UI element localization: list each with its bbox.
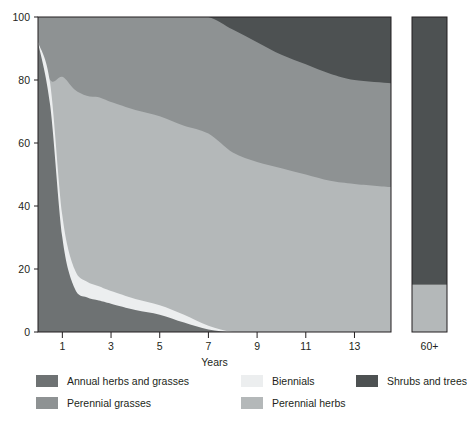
legend-swatch bbox=[36, 397, 58, 409]
legend-swatch bbox=[241, 375, 263, 387]
stacked-areas bbox=[38, 16, 391, 332]
legend-label: Perennial herbs bbox=[272, 397, 346, 409]
x-tick-label: 5 bbox=[157, 340, 163, 352]
legend-item: Perennial herbs bbox=[241, 392, 346, 414]
legend-label: Shrubs and trees bbox=[387, 375, 467, 387]
x-axis-title: Years bbox=[201, 356, 227, 368]
climax-column: 60+ bbox=[412, 17, 447, 352]
y-tick-label: 80 bbox=[18, 74, 30, 86]
legend-swatch bbox=[241, 397, 263, 409]
x-tick-label: 1 bbox=[59, 340, 65, 352]
x-tick-label: 3 bbox=[108, 340, 114, 352]
y-tick-label: 0 bbox=[24, 326, 30, 338]
legend-label: Perennial grasses bbox=[67, 397, 151, 409]
climax-segment-shrubs-and-trees bbox=[412, 17, 447, 285]
legend-item: Perennial grasses bbox=[36, 392, 189, 414]
y-axis: 020406080100 bbox=[12, 11, 38, 338]
legend-column: Shrubs and trees bbox=[356, 370, 467, 392]
x-tick-label: 13 bbox=[349, 340, 361, 352]
legend-item: Shrubs and trees bbox=[356, 370, 467, 392]
y-tick-label: 60 bbox=[18, 137, 30, 149]
x-tick-label: 9 bbox=[254, 340, 260, 352]
x-axis: 135791113 bbox=[59, 332, 360, 352]
y-tick-label: 40 bbox=[18, 200, 30, 212]
x-tick-label: 7 bbox=[205, 340, 211, 352]
legend-swatch bbox=[36, 375, 58, 387]
legend-item: Biennials bbox=[241, 370, 346, 392]
climax-label: 60+ bbox=[421, 340, 439, 352]
climax-segment-perennial-herbs bbox=[412, 285, 447, 332]
chart-legend: Annual herbs and grassesPerennial grasse… bbox=[36, 370, 446, 414]
y-tick-label: 100 bbox=[12, 11, 30, 23]
legend-label: Annual herbs and grasses bbox=[67, 375, 189, 387]
legend-column: BiennialsPerennial herbs bbox=[241, 370, 346, 414]
legend-item: Annual herbs and grasses bbox=[36, 370, 189, 392]
y-tick-label: 20 bbox=[18, 263, 30, 275]
legend-column: Annual herbs and grassesPerennial grasse… bbox=[36, 370, 189, 414]
legend-label: Biennials bbox=[272, 375, 315, 387]
legend-swatch bbox=[356, 375, 378, 387]
x-tick-label: 11 bbox=[300, 340, 311, 352]
